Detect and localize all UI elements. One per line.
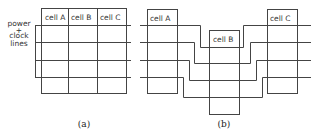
- cell-a-label: cell A: [150, 14, 171, 23]
- diagram: cell A cell B cell C power + clock lines…: [0, 0, 311, 136]
- caption-a: (a): [78, 119, 90, 129]
- caption-b: (b): [218, 119, 231, 129]
- cell-c-label: cell C: [270, 14, 291, 23]
- cell-c-label: cell C: [100, 13, 121, 22]
- panel-b: cell A cell B cell C (b): [140, 10, 311, 130]
- cell-b-label: cell B: [71, 13, 91, 22]
- side-label-line4: lines: [10, 39, 28, 48]
- panel-a: cell A cell B cell C power + clock lines…: [7, 8, 131, 129]
- cell-a-label: cell A: [45, 13, 66, 22]
- cell-b-label: cell B: [213, 35, 233, 44]
- bracket: [36, 26, 38, 78]
